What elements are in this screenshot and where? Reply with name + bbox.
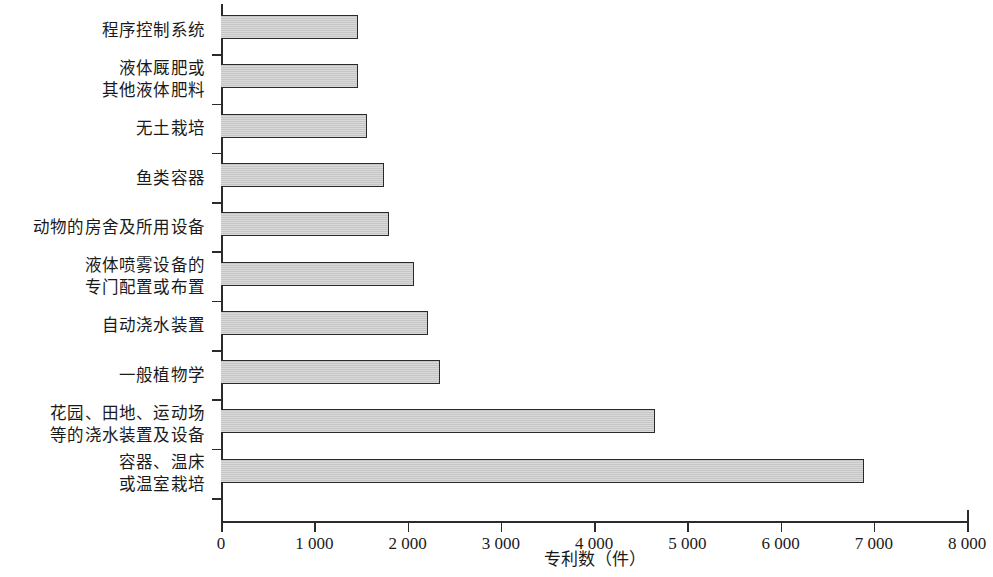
bar-row [221, 302, 967, 351]
y-axis-label-line: 无土栽培 [136, 118, 205, 140]
y-axis-label-line: 花园、田地、运动场 [50, 403, 205, 425]
bar-row [221, 55, 967, 104]
x-axis-tick [221, 523, 223, 532]
y-axis-label-line: 等的浇水装置及设备 [50, 425, 205, 447]
x-axis-tick [967, 523, 969, 532]
y-axis-label-line: 液体厩肥或 [119, 58, 205, 80]
y-axis-tick [212, 251, 221, 253]
bar [221, 360, 440, 384]
bar [221, 459, 864, 483]
y-axis-label-line: 一般植物学 [119, 365, 205, 387]
bar-row [221, 450, 967, 499]
y-axis-label-line: 或温室栽培 [119, 474, 205, 496]
y-axis-label: 动物的房舍及所用设备 [0, 203, 213, 252]
plot-area [221, 6, 967, 521]
y-axis-label: 无土栽培 [0, 105, 213, 154]
bar [221, 163, 384, 187]
y-axis-label: 液体厩肥或其他液体肥料 [0, 55, 213, 104]
x-axis-tick [314, 523, 316, 532]
y-axis-label-line: 专门配置或布置 [85, 277, 205, 299]
bar-row [221, 203, 967, 252]
bar-row [221, 351, 967, 400]
x-axis-tick [594, 523, 596, 532]
y-axis-label: 自动浇水装置 [0, 302, 213, 351]
bar [221, 212, 389, 236]
y-axis-label-line: 液体喷雾设备的 [85, 255, 205, 277]
bar [221, 262, 414, 286]
y-axis-label-line: 自动浇水装置 [102, 315, 205, 337]
bar-row [221, 400, 967, 449]
bar-row [221, 105, 967, 154]
y-axis-label: 鱼类容器 [0, 154, 213, 203]
bar [221, 409, 655, 433]
y-axis-tick [212, 449, 221, 451]
bar-row [221, 253, 967, 302]
y-axis-tick [212, 350, 221, 352]
y-axis-label-line: 动物的房舍及所用设备 [33, 217, 205, 239]
y-axis-label: 程序控制系统 [0, 6, 213, 55]
y-axis-label: 花园、田地、运动场等的浇水装置及设备 [0, 400, 213, 449]
y-axis-tick [212, 498, 221, 500]
bar [221, 114, 367, 138]
y-axis-label: 容器、温床或温室栽培 [0, 450, 213, 499]
x-axis-tick [408, 523, 410, 532]
y-axis-tick [212, 54, 221, 56]
y-axis-tick [212, 202, 221, 204]
x-axis-end-cap [967, 510, 969, 523]
bar-series [221, 6, 967, 521]
y-axis-tick [212, 104, 221, 106]
x-axis-ticks: 01 0002 0003 0004 0005 0006 0007 0008 00… [221, 523, 969, 535]
x-axis-tick [501, 523, 503, 532]
bar [221, 15, 358, 39]
y-axis-tick [212, 301, 221, 303]
bar [221, 311, 428, 335]
y-axis-label-line: 其他液体肥料 [102, 80, 205, 102]
bar [221, 64, 358, 88]
y-axis-label-line: 容器、温床 [119, 452, 205, 474]
x-axis-tick [781, 523, 783, 532]
y-axis-label-line: 鱼类容器 [136, 168, 205, 190]
y-axis-labels: 程序控制系统液体厩肥或其他液体肥料无土栽培鱼类容器动物的房舍及所用设备液体喷雾设… [0, 6, 213, 521]
x-axis-tick [687, 523, 689, 532]
y-axis-tick [212, 153, 221, 155]
bar-chart-figure: 程序控制系统液体厩肥或其他液体肥料无土栽培鱼类容器动物的房舍及所用设备液体喷雾设… [0, 0, 993, 577]
y-axis-label-line: 程序控制系统 [102, 20, 205, 42]
y-axis-label: 一般植物学 [0, 351, 213, 400]
bar-row [221, 154, 967, 203]
x-axis-tick [874, 523, 876, 532]
x-axis-title: 专利数（件） [221, 549, 969, 571]
y-axis-label: 液体喷雾设备的专门配置或布置 [0, 253, 213, 302]
bar-row [221, 6, 967, 55]
y-axis-tick [212, 399, 221, 401]
